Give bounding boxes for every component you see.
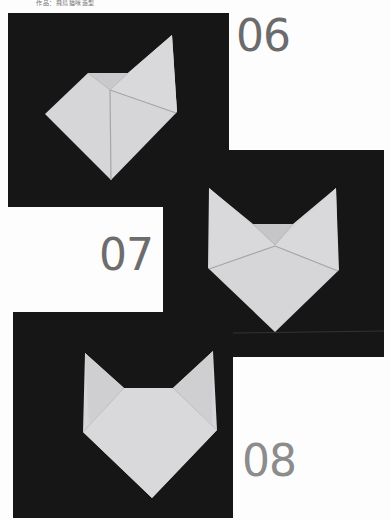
step-08-photo	[13, 312, 233, 518]
step-number-06: 06	[236, 14, 290, 58]
origami-step-08-icon	[13, 312, 233, 518]
step-number-08: 08	[242, 439, 296, 483]
page-header-text: 作品：飛鳥猫咪造型	[36, 0, 128, 6]
step-number-07: 07	[99, 233, 153, 277]
